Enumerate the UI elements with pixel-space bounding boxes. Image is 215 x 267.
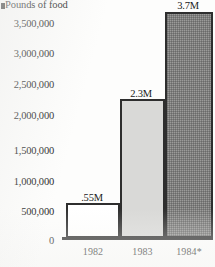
y-tick-label-1500000: 1,500,000 bbox=[0, 146, 54, 157]
y-tick-label-3000000: 3,000,000 bbox=[0, 49, 54, 60]
x-tick-label-1982: 1982 bbox=[66, 246, 120, 257]
y-axis-title: Pounds of food bbox=[1, 0, 68, 11]
x-tick-label-1983: 1983 bbox=[120, 246, 165, 257]
plot-area bbox=[62, 8, 213, 240]
bar-value-label-1984: 3.7M bbox=[163, 0, 213, 11]
y-tick-label-2500000: 2,500,000 bbox=[0, 80, 54, 91]
bar-1984 bbox=[165, 12, 213, 238]
y-tick-label-0: 0 bbox=[0, 236, 54, 247]
bar-value-label-1982: .55M bbox=[64, 192, 120, 203]
bar-chart: Pounds of food 3,500,000 3,000,000 2,500… bbox=[0, 0, 215, 267]
x-tick-label-1984: 1984* bbox=[165, 246, 213, 257]
bar-value-label-1983: 2.3M bbox=[116, 88, 166, 99]
y-tick-label-1000000: 1,000,000 bbox=[0, 177, 54, 188]
bar-1982 bbox=[66, 203, 120, 238]
bar-1983 bbox=[120, 99, 165, 238]
y-axis-title-label: Pounds of food bbox=[5, 0, 68, 10]
y-tick-label-500000: 500,000 bbox=[0, 207, 54, 218]
y-tick-label-2000000: 2,000,000 bbox=[0, 111, 54, 122]
y-tick-label-3500000: 3,500,000 bbox=[0, 19, 54, 30]
